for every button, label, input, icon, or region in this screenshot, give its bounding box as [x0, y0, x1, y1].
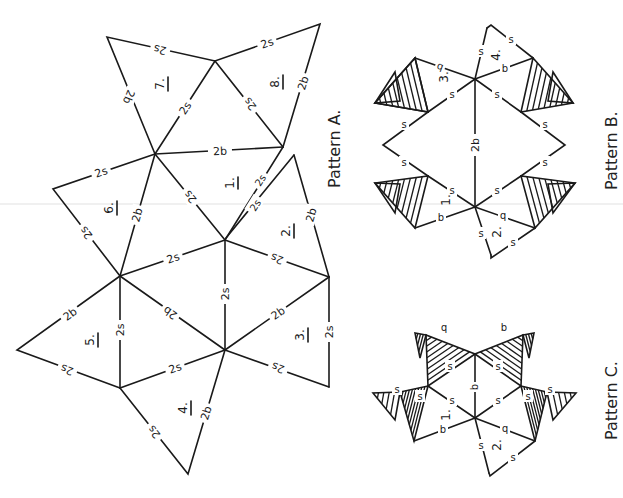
hatch-line [529, 334, 532, 346]
hatch-line [507, 341, 522, 352]
edge-label: s [447, 361, 452, 372]
edge-label: s [401, 119, 406, 130]
edge-label: s [547, 384, 552, 395]
edge [225, 147, 283, 240]
hatch-line [416, 334, 418, 340]
hatch-line [386, 392, 389, 409]
pattern-a: 2s 2s 2b 2b 2s 2s 2b 2s 2s 2s 2b 2s 2s 2… [17, 24, 344, 474]
edge-label: 2s [219, 287, 232, 300]
hatch-line [533, 178, 544, 218]
hatch-line [427, 343, 448, 357]
face-number: 4. [489, 49, 503, 60]
edge-label: s [494, 185, 499, 196]
face-number: 1. [223, 177, 237, 188]
hatch-line [553, 392, 558, 414]
edge-label: b [501, 322, 507, 333]
hatch-line [527, 177, 539, 223]
edge-label: b [438, 212, 444, 223]
hatch-line [426, 337, 431, 341]
edge-label: b [500, 211, 506, 222]
pattern-c-title: Pattern C. [602, 361, 621, 440]
face-number: 4. [176, 402, 190, 413]
pattern-c: b s s b b s s s s s s b b s s 1. 2. Patt… [373, 321, 621, 476]
hatch-line [564, 393, 566, 404]
hatch-line [539, 178, 548, 213]
hatch-line [426, 339, 436, 346]
hatch-line [382, 393, 384, 404]
hatch-line [411, 177, 423, 223]
pattern-a-edges [17, 24, 329, 474]
pattern-a-title: Pattern A. [325, 110, 344, 188]
edge-label: s [542, 157, 547, 168]
face-number: 7. [153, 78, 167, 89]
hatch-line [512, 339, 522, 346]
edge-label: b [502, 424, 508, 435]
hatch-line [388, 88, 392, 106]
hatch-line [391, 392, 395, 414]
face-number: 3. [437, 71, 451, 82]
hatch-line [406, 389, 412, 413]
face-number: 2. [279, 225, 293, 236]
face-number: 8. [268, 76, 282, 87]
hatch-line [561, 93, 564, 105]
edge-label: 2b [213, 145, 228, 159]
edge-label: s [494, 89, 499, 100]
hatch-line [527, 63, 538, 111]
edge-label: b [469, 384, 480, 390]
edge [107, 24, 320, 154]
edge-label: s [478, 440, 483, 451]
hatch-line [377, 393, 378, 399]
pattern-b-title: Pattern B. [602, 111, 621, 190]
face-number: 2. [490, 226, 504, 237]
face-number: 1. [439, 194, 453, 205]
edge-label: s [394, 384, 399, 395]
edge-label: s [417, 391, 422, 402]
edge-label: b [441, 323, 447, 334]
hatch-line [531, 334, 533, 340]
pattern-b-edge-labels: 2b s s s s s s s s b b b b s s s s [399, 33, 550, 248]
edge-label: s [495, 361, 500, 372]
hatch-line [406, 68, 416, 110]
face-number: 6. [102, 202, 116, 213]
hatch-line [502, 343, 522, 357]
edge-label: s [508, 34, 513, 45]
hatch-line [384, 93, 387, 105]
hatch-line [403, 391, 406, 403]
face-number: 2. [490, 439, 504, 450]
hatch-line [559, 392, 563, 409]
edge-label: b [502, 63, 508, 74]
edge-label: s [449, 395, 454, 406]
polyhedron-nets-diagram: 2s 2s 2b 2b 2s 2s 2b 2s 2s 2s 2b 2s 2s 2… [0, 0, 623, 498]
face-number: 3. [293, 329, 307, 340]
edge-label: 2s [114, 323, 127, 336]
edge-label: 2b [469, 138, 482, 152]
edge-label: s [449, 89, 454, 100]
hatch-line [411, 63, 423, 111]
edge-label: 2s [323, 325, 336, 338]
edge-label: s [510, 237, 515, 248]
edge-label: s [525, 391, 530, 402]
edge-label: s [510, 452, 515, 463]
hatch-line [418, 334, 421, 346]
hatch-line [533, 68, 542, 110]
hatch-line [406, 178, 416, 218]
edge-label: s [495, 395, 500, 406]
hatch-line [556, 88, 560, 106]
hatch-line [518, 337, 523, 341]
face-number: 5. [83, 334, 97, 345]
edge-label: b [440, 424, 446, 435]
hatch-line [570, 393, 571, 399]
edge-label: s [401, 157, 406, 168]
edge-label: s [478, 46, 483, 57]
hatch-line [427, 341, 443, 352]
edge-label: s [478, 228, 483, 239]
pattern-b: 2b s s s s s s s s b b b b s s s s 1. 2.… [375, 25, 621, 258]
face-number: 1. [439, 409, 453, 420]
edge-label: s [542, 119, 547, 130]
